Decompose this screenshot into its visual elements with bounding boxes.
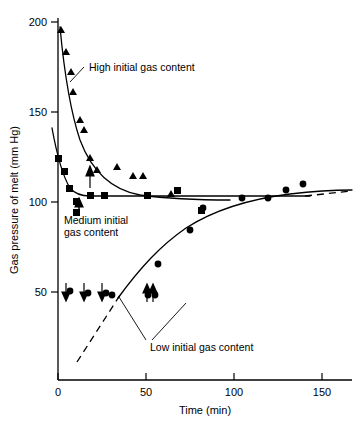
low-initial-gas-curve — [118, 190, 352, 298]
square-marker — [101, 192, 108, 199]
high-initial-gas-curve — [60, 27, 230, 200]
square-marker — [174, 187, 181, 194]
down-arrow-icon — [80, 292, 88, 301]
circle-marker — [239, 195, 246, 202]
x-tick-label-0: 0 — [55, 386, 61, 398]
up-arrow-icon — [86, 166, 94, 176]
triangle-marker — [113, 163, 121, 170]
high-initial-gas-markers — [57, 26, 175, 197]
chart-figure: 200 150 100 50 0 50 100 150 Time (min) G… — [0, 0, 361, 428]
y-axis-title: Gas pressure of melt (mm Hg) — [8, 126, 20, 274]
circle-marker — [187, 227, 194, 234]
square-marker — [144, 192, 151, 199]
circle-marker — [265, 195, 272, 202]
x-tick-label-50: 50 — [140, 386, 152, 398]
low-initial-gas-leader-left — [119, 297, 146, 340]
circle-marker — [200, 205, 207, 212]
annotation-low-initial-gas-content: Low initial gas content — [150, 341, 253, 353]
triangle-marker — [80, 126, 88, 133]
circle-marker — [283, 187, 290, 194]
curves-group — [52, 27, 352, 362]
square-marker — [66, 185, 73, 192]
y-tick-label-200: 200 — [29, 16, 47, 28]
down-arrow-icon — [98, 292, 106, 301]
square-marker — [61, 168, 68, 175]
low-initial-gas-leader-right — [152, 303, 186, 340]
down-arrow-icon — [62, 292, 70, 301]
x-tick-label-150: 150 — [313, 386, 331, 398]
low-initial-gas-curve-extrapolation — [77, 292, 122, 362]
circle-marker — [155, 261, 162, 268]
triangle-marker — [69, 88, 77, 95]
gas-pressure-vs-time-chart: 200 150 100 50 0 50 100 150 Time (min) G… — [0, 0, 361, 428]
y-tick-label-150: 150 — [29, 106, 47, 118]
x-tick-label-100: 100 — [225, 386, 243, 398]
annotation-medium-initial-line1: Medium initial — [64, 214, 128, 226]
square-marker — [87, 192, 94, 199]
y-tick-label-50: 50 — [35, 286, 47, 298]
triangle-marker — [129, 172, 137, 179]
square-marker — [55, 155, 62, 162]
triangle-marker — [167, 190, 175, 197]
annotation-medium-initial-line2: gas content — [64, 226, 118, 238]
annotation-high-initial-gas-content: High initial gas content — [89, 61, 195, 73]
up-arrow-icon — [149, 284, 157, 293]
triangle-marker — [76, 116, 84, 123]
circle-marker — [109, 292, 116, 299]
x-axis-title: Time (min) — [179, 404, 231, 416]
circle-marker — [300, 181, 307, 188]
triangle-marker — [67, 68, 75, 75]
y-tick-label-100: 100 — [29, 196, 47, 208]
annotation-leaders — [70, 67, 186, 340]
triangle-marker — [139, 172, 147, 179]
